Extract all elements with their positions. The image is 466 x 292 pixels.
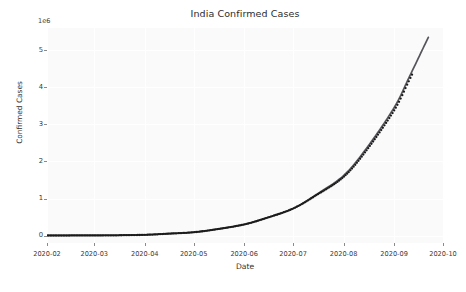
data-point [411, 74, 413, 76]
data-point [359, 158, 361, 160]
data-point [351, 167, 353, 169]
data-point [369, 145, 371, 147]
data-point [354, 164, 356, 166]
data-point [409, 77, 411, 79]
data-point [364, 151, 366, 153]
data-point [385, 122, 387, 124]
x-tick-mark [293, 243, 294, 246]
data-point [352, 166, 354, 168]
x-tick-label: 2020-10 [413, 250, 466, 258]
data-point [396, 104, 398, 106]
data-point [406, 83, 408, 85]
y-tick-label: 0 [21, 232, 43, 239]
data-point [372, 140, 374, 142]
data-point [348, 171, 350, 173]
x-axis-tick-labels: 2020-022020-032020-042020-052020-062020-… [0, 250, 466, 262]
x-tick-mark [47, 243, 48, 246]
x-tick-mark [194, 243, 195, 246]
y-tick-mark [44, 124, 47, 125]
fitted-curve-line [47, 37, 428, 235]
y-tick-label: 2 [21, 158, 43, 165]
chart-data-layer [47, 28, 443, 243]
chart-figure: India Confirmed Cases 1e6 012345 2020-02… [0, 0, 466, 292]
data-point [387, 119, 389, 121]
data-point [377, 134, 379, 136]
data-point [401, 94, 403, 96]
data-point [391, 112, 393, 114]
data-point [349, 169, 351, 171]
data-point [380, 129, 382, 131]
data-point [365, 149, 367, 151]
data-point [367, 147, 369, 149]
data-point [395, 107, 397, 109]
y-tick-label: 5 [21, 47, 43, 54]
y-tick-mark [44, 50, 47, 51]
data-point [400, 97, 402, 99]
data-point [393, 109, 395, 111]
x-tick-mark [244, 243, 245, 246]
plot-area [47, 28, 443, 243]
data-point [398, 101, 400, 103]
data-point [404, 87, 406, 89]
data-point [375, 136, 377, 138]
y-tick-mark [44, 161, 47, 162]
data-point [408, 80, 410, 82]
data-point [388, 117, 390, 119]
data-point [370, 143, 372, 145]
data-point [382, 127, 384, 129]
x-axis-title: Date [47, 262, 443, 271]
data-point [362, 153, 364, 155]
data-point [378, 131, 380, 133]
data-point [390, 114, 392, 116]
data-point [361, 156, 363, 158]
observed-data-points [47, 74, 413, 237]
x-tick-mark [344, 243, 345, 246]
data-point [356, 162, 358, 164]
chart-title: India Confirmed Cases [47, 8, 443, 19]
x-tick-mark [394, 243, 395, 246]
data-point [346, 173, 348, 175]
data-point [357, 160, 359, 162]
data-point [403, 91, 405, 93]
x-tick-mark [443, 243, 444, 246]
data-point [374, 138, 376, 140]
y-tick-label: 1 [21, 195, 43, 202]
x-tick-mark [145, 243, 146, 246]
y-tick-mark [44, 236, 47, 237]
y-tick-mark [44, 199, 47, 200]
y-tick-mark [44, 87, 47, 88]
y-tick-label: 3 [21, 121, 43, 128]
y-tick-label: 4 [21, 84, 43, 91]
y-axis-title: Confirmed Cases [15, 68, 24, 158]
data-point [383, 124, 385, 126]
x-tick-mark [94, 243, 95, 246]
